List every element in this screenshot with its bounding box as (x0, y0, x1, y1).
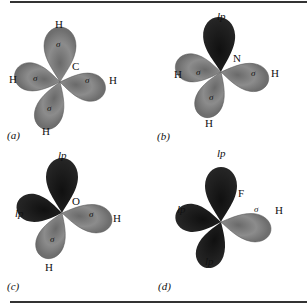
terminal-h-left: H (174, 69, 182, 80)
terminal-h-right: H (113, 213, 121, 224)
panel-b-orbitals (173, 16, 270, 122)
panel-caption-d: (d) (158, 281, 171, 292)
terminal-h-bottom: H (205, 118, 213, 129)
lone-pair-label-top: lp (217, 148, 226, 159)
sigma-label: σ (251, 68, 255, 78)
terminal-h-top: H (55, 19, 63, 30)
sigma-label: σ (33, 73, 37, 83)
terminal-h-right: H (271, 68, 279, 79)
panel-caption-b: (b) (157, 131, 170, 142)
sigma-label: σ (196, 67, 200, 77)
panel-c-orbitals (14, 158, 114, 263)
panel-d-orbitals (173, 167, 273, 272)
terminal-h-right: H (109, 75, 117, 86)
lone-pair-label-top: lp (217, 11, 226, 22)
sigma-lobe-right (60, 199, 115, 235)
lone-pair-label-bottom: lp (205, 256, 214, 267)
central-atom-n: N (233, 53, 241, 64)
terminal-h-bottom: H (45, 262, 53, 273)
sigma-label: σ (85, 75, 89, 85)
central-atom-c: C (72, 61, 79, 72)
sigma-lobe-right (219, 208, 274, 244)
panel-caption-a: (a) (7, 130, 20, 141)
lone-pair-label-left: lp (177, 204, 186, 215)
sigma-label: σ (254, 204, 258, 214)
sigma-label: σ (209, 92, 213, 102)
terminal-h-left: H (9, 74, 17, 85)
central-atom-f: F (238, 188, 244, 199)
terminal-h-bottom: H (42, 126, 50, 137)
sigma-label: σ (89, 209, 93, 219)
panel-caption-c: (c) (7, 281, 19, 292)
sigma-label: σ (47, 103, 51, 113)
lone-pair-label-left: lp (15, 208, 24, 219)
sigma-label: σ (56, 39, 60, 49)
sigma-label: σ (50, 234, 54, 244)
sigma-lobe-right (219, 58, 271, 94)
central-atom-o: O (72, 196, 80, 207)
terminal-h-right: H (275, 205, 283, 216)
lone-pair-label-top: lp (58, 150, 67, 161)
